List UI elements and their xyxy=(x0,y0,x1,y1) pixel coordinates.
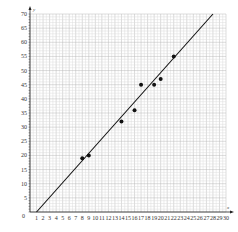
x-tick-label: 4 xyxy=(55,215,58,221)
y-tick-label: 25 xyxy=(21,138,27,144)
y-tick-label: 30 xyxy=(21,124,27,130)
x-tick-label: 10 xyxy=(92,215,98,221)
x-tick-label: 25 xyxy=(190,215,196,221)
y-axis-label: y xyxy=(32,7,36,12)
x-tick-labels: 1234567891011121314151617181920212223242… xyxy=(35,215,229,221)
x-tick-label: 3 xyxy=(48,215,51,221)
y-tick-label: 45 xyxy=(21,82,27,88)
y-tick-label: 70 xyxy=(21,11,27,17)
data-point xyxy=(159,77,163,81)
x-tick-label: 26 xyxy=(197,215,203,221)
y-tick-label: 5 xyxy=(24,195,27,201)
x-tick-label: 1 xyxy=(35,215,38,221)
data-point xyxy=(139,83,143,87)
data-point xyxy=(87,153,91,157)
origin-label: 0 xyxy=(22,213,25,219)
x-tick-label: 30 xyxy=(223,215,229,221)
x-tick-label: 22 xyxy=(171,215,177,221)
y-tick-label: 20 xyxy=(21,152,27,158)
x-tick-label: 2 xyxy=(42,215,45,221)
x-tick-label: 7 xyxy=(74,215,77,221)
x-axis-label: x xyxy=(226,205,230,210)
x-tick-label: 13 xyxy=(112,215,118,221)
data-point xyxy=(119,119,123,123)
y-tick-label: 35 xyxy=(21,110,27,116)
x-tick-label: 23 xyxy=(177,215,183,221)
data-point xyxy=(172,54,176,58)
x-tick-label: 11 xyxy=(99,215,105,221)
x-tick-label: 29 xyxy=(216,215,222,221)
x-tick-label: 8 xyxy=(81,215,84,221)
y-tick-labels: 510152025303540455055606570 xyxy=(21,11,27,201)
y-tick-label: 50 xyxy=(21,68,27,74)
grid xyxy=(30,14,226,212)
x-tick-label: 20 xyxy=(158,215,164,221)
x-tick-label: 16 xyxy=(132,215,138,221)
y-tick-label: 40 xyxy=(21,96,27,102)
data-point xyxy=(80,156,84,160)
y-tick-label: 60 xyxy=(21,39,27,45)
y-tick-label: 10 xyxy=(21,181,27,187)
x-tick-label: 18 xyxy=(145,215,151,221)
x-tick-label: 9 xyxy=(87,215,90,221)
y-tick-label: 55 xyxy=(21,53,27,59)
y-tick-label: 15 xyxy=(21,167,27,173)
data-point xyxy=(133,108,137,112)
x-tick-label: 21 xyxy=(164,215,170,221)
x-tick-label: 17 xyxy=(138,215,144,221)
x-tick-label: 19 xyxy=(151,215,157,221)
x-tick-label: 28 xyxy=(210,215,216,221)
data-point xyxy=(152,83,156,87)
x-tick-label: 14 xyxy=(118,215,124,221)
x-tick-label: 24 xyxy=(184,215,190,221)
scatter-chart: 510152025303540455055606570 123456789101… xyxy=(0,0,238,232)
x-tick-label: 6 xyxy=(68,215,71,221)
x-tick-label: 15 xyxy=(125,215,131,221)
x-tick-label: 12 xyxy=(105,215,111,221)
x-tick-label: 5 xyxy=(61,215,64,221)
y-tick-label: 65 xyxy=(21,25,27,31)
x-tick-label: 27 xyxy=(203,215,209,221)
